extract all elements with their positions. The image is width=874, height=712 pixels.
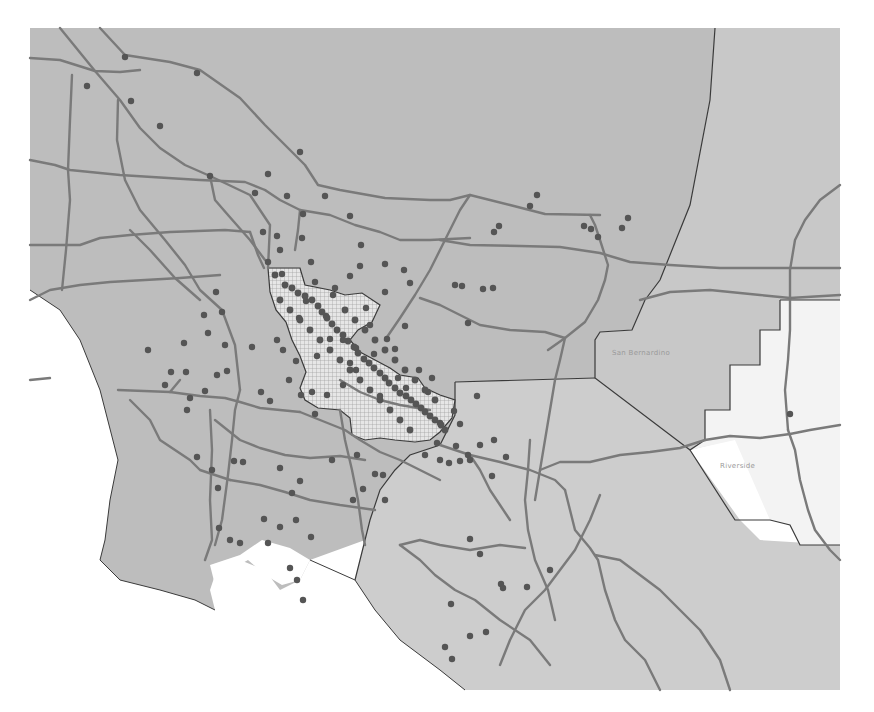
- location-point[interactable]: [392, 346, 398, 352]
- location-point[interactable]: [287, 565, 293, 571]
- location-point[interactable]: [357, 263, 363, 269]
- map-canvas[interactable]: San Bernardino Riverside: [0, 0, 874, 712]
- location-point[interactable]: [295, 290, 302, 297]
- location-point[interactable]: [353, 367, 359, 373]
- location-point[interactable]: [277, 524, 283, 530]
- location-point[interactable]: [491, 437, 497, 443]
- location-point[interactable]: [297, 317, 304, 324]
- location-point[interactable]: [401, 267, 407, 273]
- location-point[interactable]: [352, 317, 359, 324]
- location-point[interactable]: [392, 357, 399, 364]
- location-point[interactable]: [308, 534, 314, 540]
- location-point[interactable]: [219, 309, 225, 315]
- location-point[interactable]: [407, 280, 413, 286]
- location-point[interactable]: [332, 285, 338, 291]
- location-point[interactable]: [527, 203, 533, 209]
- location-point[interactable]: [300, 211, 306, 217]
- location-point[interactable]: [402, 323, 408, 329]
- location-point[interactable]: [274, 233, 280, 239]
- location-point[interactable]: [298, 392, 304, 398]
- location-point[interactable]: [122, 54, 128, 60]
- location-point[interactable]: [280, 347, 286, 353]
- location-point[interactable]: [249, 344, 255, 350]
- location-point[interactable]: [387, 407, 394, 414]
- location-point[interactable]: [434, 440, 440, 446]
- location-point[interactable]: [363, 305, 369, 311]
- location-point[interactable]: [184, 407, 190, 413]
- map-svg[interactable]: San Bernardino Riverside: [0, 0, 874, 712]
- location-point[interactable]: [489, 473, 495, 479]
- location-point[interactable]: [319, 309, 326, 316]
- location-point[interactable]: [274, 337, 280, 343]
- location-point[interactable]: [312, 411, 318, 417]
- location-point[interactable]: [145, 347, 151, 353]
- location-point[interactable]: [157, 123, 163, 129]
- location-point[interactable]: [459, 283, 465, 289]
- location-point[interactable]: [429, 375, 435, 381]
- location-point[interactable]: [277, 297, 284, 304]
- location-point[interactable]: [442, 427, 449, 434]
- location-point[interactable]: [342, 307, 349, 314]
- location-point[interactable]: [524, 584, 530, 590]
- location-point[interactable]: [293, 517, 299, 523]
- location-point[interactable]: [216, 525, 222, 531]
- location-point[interactable]: [267, 398, 273, 404]
- location-point[interactable]: [451, 408, 457, 414]
- location-point[interactable]: [467, 536, 473, 542]
- location-point[interactable]: [207, 173, 213, 179]
- location-point[interactable]: [302, 293, 309, 300]
- location-point[interactable]: [416, 367, 422, 373]
- location-point[interactable]: [407, 427, 414, 434]
- location-point[interactable]: [358, 242, 364, 248]
- location-point[interactable]: [322, 193, 328, 199]
- location-point[interactable]: [491, 229, 497, 235]
- location-point[interactable]: [503, 454, 509, 460]
- location-point[interactable]: [227, 537, 233, 543]
- location-point[interactable]: [329, 457, 335, 463]
- location-point[interactable]: [422, 387, 429, 394]
- location-point[interactable]: [397, 417, 404, 424]
- location-point[interactable]: [496, 223, 502, 229]
- location-point[interactable]: [477, 442, 483, 448]
- location-point[interactable]: [340, 332, 347, 339]
- location-point[interactable]: [442, 644, 448, 650]
- location-point[interactable]: [402, 367, 409, 374]
- location-point[interactable]: [366, 360, 373, 367]
- location-point[interactable]: [324, 315, 331, 322]
- location-point[interactable]: [384, 336, 390, 342]
- location-point[interactable]: [187, 395, 193, 401]
- location-point[interactable]: [386, 380, 393, 387]
- location-point[interactable]: [351, 344, 358, 351]
- location-point[interactable]: [272, 272, 279, 279]
- location-point[interactable]: [309, 297, 316, 304]
- location-point[interactable]: [382, 497, 388, 503]
- location-point[interactable]: [183, 369, 189, 375]
- location-point[interactable]: [222, 342, 228, 348]
- location-point[interactable]: [467, 457, 473, 463]
- location-point[interactable]: [260, 229, 266, 235]
- location-point[interactable]: [377, 370, 384, 377]
- location-point[interactable]: [202, 388, 208, 394]
- location-point[interactable]: [205, 330, 211, 336]
- location-point[interactable]: [422, 452, 428, 458]
- location-point[interactable]: [194, 454, 200, 460]
- location-point[interactable]: [452, 282, 458, 288]
- location-point[interactable]: [500, 585, 506, 591]
- location-point[interactable]: [265, 540, 271, 546]
- location-point[interactable]: [314, 353, 320, 359]
- location-point[interactable]: [297, 149, 303, 155]
- location-point[interactable]: [214, 372, 220, 378]
- location-point[interactable]: [289, 285, 296, 292]
- location-point[interactable]: [448, 601, 454, 607]
- location-point[interactable]: [432, 417, 439, 424]
- location-point[interactable]: [128, 98, 134, 104]
- location-point[interactable]: [446, 460, 452, 466]
- location-point[interactable]: [181, 340, 187, 346]
- location-point[interactable]: [162, 382, 168, 388]
- location-point[interactable]: [534, 192, 540, 198]
- location-point[interactable]: [397, 390, 404, 397]
- location-point[interactable]: [330, 292, 336, 298]
- location-point[interactable]: [340, 382, 346, 388]
- location-point[interactable]: [293, 358, 299, 364]
- location-point[interactable]: [347, 367, 354, 374]
